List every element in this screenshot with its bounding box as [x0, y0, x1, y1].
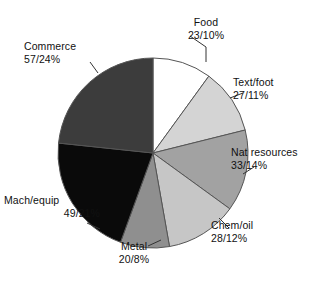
slice-label-mach-equip-value: 49/21% — [4, 207, 100, 220]
slice-label-metal-name: Metal — [98, 240, 170, 253]
slice-label-metal: Metal 20/8% — [98, 240, 170, 266]
pie-slice-commerce[interactable] — [59, 58, 153, 153]
slice-label-chem-oil-name: Chem/oil — [211, 219, 297, 232]
slice-label-nat-resources-value: 33/14% — [231, 159, 333, 172]
slice-label-commerce-name: Commerce — [24, 40, 114, 53]
slice-label-text-foot-value: 27/11% — [233, 89, 325, 102]
slice-label-commerce: Commerce 57/24% — [24, 40, 114, 66]
slice-label-chem-oil-value: 28/12% — [211, 232, 297, 245]
slice-label-metal-value: 20/8% — [98, 253, 170, 266]
slice-label-nat-resources: Nat resources 33/14% — [231, 146, 333, 172]
chart-canvas: Food 23/10% Text/foot 27/11% Nat resourc… — [0, 0, 335, 287]
slice-label-text-foot: Text/foot 27/11% — [233, 76, 325, 102]
slice-label-commerce-value: 57/24% — [24, 53, 114, 66]
slice-label-mach-equip-name: Mach/equip — [4, 194, 100, 207]
slice-label-food-name: Food — [163, 16, 249, 29]
slice-label-nat-resources-name: Nat resources — [231, 146, 333, 159]
slice-label-food: Food 23/10% — [163, 16, 249, 42]
slice-label-mach-equip: Mach/equip 49/21% — [4, 194, 100, 220]
slice-label-text-foot-name: Text/foot — [233, 76, 325, 89]
slice-label-food-value: 23/10% — [163, 29, 249, 42]
slice-label-chem-oil: Chem/oil 28/12% — [211, 219, 297, 245]
